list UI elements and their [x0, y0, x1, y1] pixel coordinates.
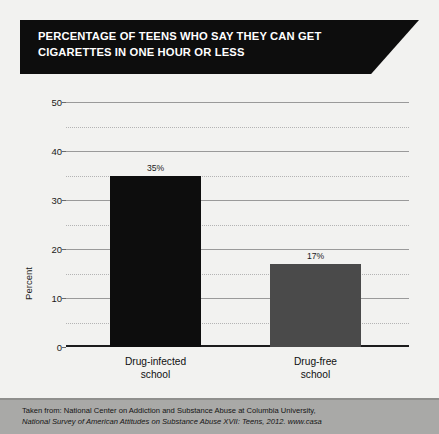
category-label-line: Drug-infected: [91, 355, 221, 368]
plot-area: 0102030405035%Drug-infectedschool17%Drug…: [66, 102, 409, 347]
y-axis-tick-label: 30: [51, 195, 62, 206]
bar-chart: Percent 0102030405035%Drug-infectedschoo…: [0, 88, 439, 388]
chart-title-line-2: CIGARETTES IN ONE HOUR OR LESS: [38, 45, 419, 61]
y-axis-tickmark: [62, 151, 66, 152]
bar-value-label: 17%: [307, 251, 324, 261]
category-label-line: school: [251, 368, 381, 381]
source-line-1: Taken from: National Center on Addiction…: [22, 406, 425, 417]
gridline-minor: [66, 127, 409, 128]
category-label-line: school: [91, 368, 221, 381]
source-line-2: National Survey of American Attitudes on…: [22, 417, 425, 428]
bar-value-label: 35%: [147, 163, 164, 173]
y-axis-tickmark: [62, 102, 66, 103]
y-axis-label: Percent: [23, 244, 34, 324]
x-axis-category-label: Drug-infectedschool: [91, 355, 221, 381]
y-axis-tick-label: 10: [51, 293, 62, 304]
gridline-major: [66, 151, 409, 152]
y-axis-tickmark: [62, 298, 66, 299]
bar-drug-free-school[interactable]: 17%Drug-freeschool: [270, 264, 361, 347]
y-axis-tick-label: 50: [51, 97, 62, 108]
y-axis-tickmark: [62, 249, 66, 250]
y-axis-tickmark: [62, 347, 66, 348]
y-axis-tick-label: 40: [51, 146, 62, 157]
gridline-major: [66, 102, 409, 103]
x-axis-category-label: Drug-freeschool: [251, 355, 381, 381]
chart-title-banner: PERCENTAGE OF TEENS WHO SAY THEY CAN GET…: [20, 20, 419, 74]
source-footer: Taken from: National Center on Addiction…: [0, 398, 439, 434]
category-label-line: Drug-free: [251, 355, 381, 368]
y-axis-tick-label: 20: [51, 244, 62, 255]
y-axis-tickmark: [62, 200, 66, 201]
y-axis-tick-label: 0: [57, 342, 62, 353]
chart-title-line-1: PERCENTAGE OF TEENS WHO SAY THEY CAN GET: [38, 29, 419, 45]
bar-drug-infected-school[interactable]: 35%Drug-infectedschool: [110, 176, 201, 348]
